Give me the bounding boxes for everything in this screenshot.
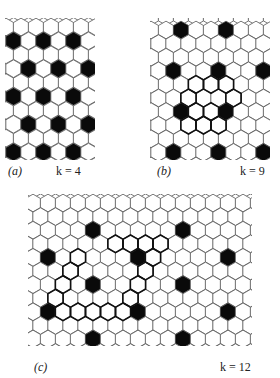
hex-cell: [250, 221, 265, 239]
hex-cell: [243, 344, 258, 362]
hex-grid-canvas: [0, 0, 280, 378]
hex-cell: [10, 221, 25, 239]
hex-cell: [10, 276, 25, 294]
hex-cell: [128, 157, 143, 175]
hex-cell: [96, 32, 111, 50]
hex-cell: [250, 249, 265, 267]
hex-cell: [10, 330, 25, 348]
hex-cell: [111, 32, 126, 50]
hex-cell: [103, 18, 118, 36]
panel-a-k-value: k = 4: [56, 164, 81, 179]
hex-cell: [128, 130, 143, 148]
panel-c-label: (c): [34, 360, 47, 375]
hex-cell: [278, 103, 280, 121]
panel-a-label: (a): [8, 164, 22, 179]
hex-cell: [48, 344, 63, 362]
hexagonal-reuse-pattern-figure: (a) k = 4 (b) k = 9 (c) k = 12: [0, 0, 280, 378]
hex-cell: [123, 344, 138, 362]
hex-cell: [103, 102, 118, 120]
hex-cell: [103, 129, 118, 147]
hex-cell: [88, 4, 103, 22]
hex-cell: [250, 330, 265, 348]
hex-cell: [103, 157, 118, 175]
hex-cell: [128, 76, 143, 94]
hex-cell: [128, 21, 143, 39]
hex-cell: [153, 344, 168, 362]
hex-cell: [96, 115, 111, 133]
hex-cell: [10, 181, 25, 199]
hex-cell: [271, 116, 280, 134]
panel-a-hex-grid: [0, 4, 126, 175]
hex-cell: [278, 157, 280, 175]
hex-cell: [136, 62, 151, 80]
hex-cell: [111, 115, 126, 133]
hex-cell: [271, 144, 280, 162]
hex-cell: [136, 144, 151, 162]
hex-cell: [10, 194, 25, 212]
panel-b-k-value: k = 9: [240, 164, 265, 179]
hex-cell: [203, 157, 218, 175]
hex-cell: [10, 249, 25, 267]
hex-cell: [28, 157, 43, 175]
hex-cell: [263, 157, 278, 175]
hex-cell: [250, 181, 265, 199]
hex-cell: [103, 4, 118, 22]
hex-cell: [218, 157, 233, 175]
hex-cell: [250, 276, 265, 294]
panel-c-k-value: k = 12: [220, 360, 251, 375]
hex-cell: [213, 344, 228, 362]
hex-cell: [278, 21, 280, 39]
hex-cell: [96, 88, 111, 106]
hex-cell: [183, 344, 198, 362]
hex-cell: [111, 60, 126, 78]
hex-cell: [93, 344, 108, 362]
hex-cell: [96, 143, 111, 161]
hex-cell: [128, 8, 143, 26]
hex-cell: [258, 262, 273, 280]
hex-cell: [250, 194, 265, 212]
hex-cell: [96, 60, 111, 78]
hex-cell: [258, 235, 273, 253]
hex-cell: [263, 8, 278, 26]
hex-cell: [63, 344, 78, 362]
hex-cell: [258, 344, 273, 362]
hex-cell: [136, 116, 151, 134]
hex-cell: [258, 208, 273, 226]
hex-cell: [103, 46, 118, 64]
hex-cell: [128, 48, 143, 66]
hex-cell: [78, 344, 93, 362]
hex-cell: [198, 344, 213, 362]
hex-cell: [278, 48, 280, 66]
hex-cell: [278, 130, 280, 148]
hex-cell: [111, 88, 126, 106]
panel-b-hex-grid: [128, 8, 280, 175]
hex-cell: [228, 344, 243, 362]
hex-cell: [278, 8, 280, 26]
hex-cell: [128, 103, 143, 121]
hex-cell: [271, 35, 280, 53]
hex-cell: [33, 344, 48, 362]
hex-cell: [108, 344, 123, 362]
hex-cell: [271, 62, 280, 80]
hex-cell: [188, 157, 203, 175]
hex-cell: [278, 76, 280, 94]
hex-cell: [10, 303, 25, 321]
hex-cell: [250, 303, 265, 321]
hex-cell: [168, 344, 183, 362]
hex-cell: [88, 157, 103, 175]
hex-cell: [136, 89, 151, 107]
panel-b-label: (b): [157, 164, 171, 179]
hex-cell: [173, 157, 188, 175]
panel-c-hex-grid: [10, 181, 273, 362]
hex-cell: [271, 89, 280, 107]
hex-cell: [136, 35, 151, 53]
hex-cell: [111, 143, 126, 161]
hex-cell: [18, 344, 33, 362]
hex-cell: [103, 74, 118, 92]
hex-cell: [258, 289, 273, 307]
hex-cell: [138, 344, 153, 362]
hex-cell: [258, 317, 273, 335]
